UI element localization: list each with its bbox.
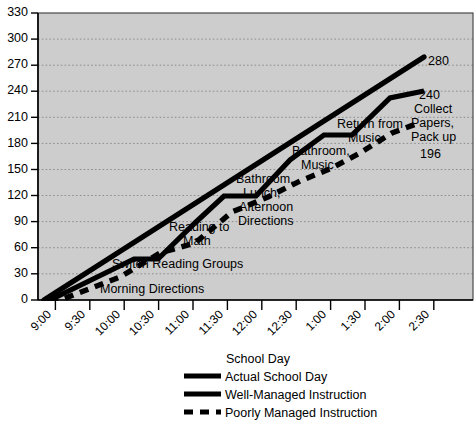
- legend-label-poorly-managed-instruction: Poorly Managed Instruction: [225, 406, 377, 420]
- y-tick-label: 120: [7, 188, 28, 202]
- x-tick-label: 1:30: [338, 307, 365, 334]
- x-tick-label: 9:00: [28, 307, 55, 334]
- y-tick-label: 180: [7, 136, 28, 150]
- x-axis-tick-labels: 9:00 9:30 10:00 10:30 11:00 11:30 12:00 …: [28, 307, 433, 338]
- x-axis-title: School Day: [226, 352, 291, 366]
- annotation-bathroom-lunch-afternoon-directions: Afternoon: [239, 200, 293, 214]
- plot-area-background: [38, 13, 473, 300]
- x-tick-label: 11:30: [196, 307, 227, 338]
- y-tick-label: 300: [7, 31, 28, 45]
- legend-label-well-managed-instruction: Well-Managed Instruction: [225, 388, 367, 402]
- annotation-collect-papers-pack-up: Pack up: [411, 130, 456, 144]
- x-tick-label: 12:30: [264, 307, 295, 338]
- y-tick-label: 240: [7, 83, 28, 97]
- y-tick-label: 330: [7, 5, 28, 19]
- x-tick-label: 11:00: [162, 307, 193, 338]
- y-axis-ticks: [31, 13, 38, 300]
- annotation-bathroom-music: Music: [301, 158, 334, 172]
- school-day-line-chart: 0 30 60 90 120 150 180 210 240 270 300 3…: [0, 0, 476, 430]
- y-tick-label: 150: [7, 162, 28, 176]
- y-tick-label: 210: [7, 110, 28, 124]
- x-tick-label: 9:30: [62, 307, 89, 334]
- annotation-collect-papers-pack-up: Papers,: [411, 116, 454, 130]
- y-tick-label: 270: [7, 57, 28, 71]
- annotation-reading-to-math: Reading to: [169, 220, 230, 234]
- value-label-196: 196: [420, 147, 441, 161]
- y-tick-label: 30: [14, 266, 28, 280]
- x-tick-label: 1:00: [303, 307, 330, 334]
- y-tick-label: 0: [21, 292, 28, 306]
- y-tick-label: 60: [14, 240, 28, 254]
- x-tick-label: 10:00: [92, 307, 123, 338]
- annotation-return-from-music: Return from: [337, 117, 403, 131]
- annotation-reading-to-math: Math: [183, 234, 211, 248]
- x-tick-label: 2:00: [372, 307, 399, 334]
- annotation-switch-reading-groups: Switch Reading Groups: [112, 257, 243, 271]
- annotation-return-from-music: Music: [348, 131, 381, 145]
- chart-container: 0 30 60 90 120 150 180 210 240 270 300 3…: [0, 0, 476, 430]
- annotation-bathroom-music: Bathroom,: [292, 144, 350, 158]
- annotation-bathroom-lunch-afternoon-directions: Bathroom,: [236, 172, 294, 186]
- annotation-bathroom-lunch-afternoon-directions: Lunch,: [243, 186, 281, 200]
- value-label-240: 240: [419, 88, 440, 102]
- x-tick-label: 12:00: [229, 307, 260, 338]
- x-tick-label: 10:30: [126, 307, 157, 338]
- value-label-280: 280: [428, 54, 449, 68]
- legend-label-actual-school-day: Actual School Day: [225, 370, 328, 384]
- annotation-morning-directions: Morning Directions: [100, 282, 204, 296]
- x-tick-label: 2:30: [406, 307, 433, 334]
- annotation-bathroom-lunch-afternoon-directions: Directions: [238, 214, 294, 228]
- y-tick-label: 90: [14, 214, 28, 228]
- chart-legend: Actual School Day Well-Managed Instructi…: [184, 370, 377, 420]
- y-axis-tick-labels: 0 30 60 90 120 150 180 210 240 270 300 3…: [7, 5, 28, 306]
- annotation-collect-papers-pack-up: Collect: [414, 102, 453, 116]
